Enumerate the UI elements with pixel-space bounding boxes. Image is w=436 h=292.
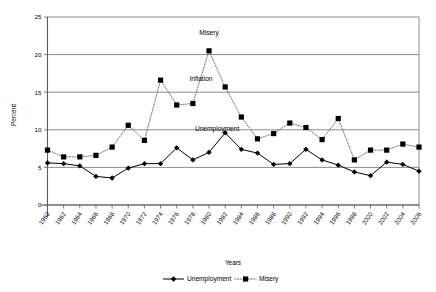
data-point-misery-1966 (93, 153, 98, 158)
y-tick-label: 15 (35, 89, 42, 96)
chart-container: 0510152025 19601962196419661968197019721… (0, 0, 436, 292)
annotation-unemployment: Unemployment (195, 125, 240, 133)
data-point-misery-1994 (319, 137, 324, 142)
data-point-misery-1990 (287, 120, 292, 125)
y-axis-title: Percent (10, 104, 17, 126)
data-point-misery-1986 (255, 136, 260, 141)
chart-annotations: MiseryInflationUnemployment (189, 29, 239, 133)
data-point-misery-1978 (190, 101, 195, 106)
data-point-unemployment-1998 (352, 169, 357, 174)
data-point-misery-2000 (368, 148, 373, 153)
x-tick-label: 2000 (360, 210, 374, 226)
x-tick-label: 1994 (312, 210, 326, 226)
annotation-misery: Misery (199, 29, 219, 37)
series-misery-line (48, 51, 420, 160)
data-point-unemployment-1970 (126, 165, 131, 170)
data-point-misery-1976 (174, 102, 179, 107)
data-point-unemployment-1960 (45, 160, 50, 165)
x-tick-label: 1988 (263, 210, 277, 226)
series-misery-group (45, 48, 422, 162)
x-tick-label: 2004 (393, 210, 407, 226)
data-point-misery-2006 (416, 144, 421, 149)
legend-item-unemployment: Unemployment (163, 275, 232, 283)
legend-label-unemployment: Unemployment (187, 275, 232, 283)
y-tick-label: 20 (35, 51, 42, 58)
data-point-misery-1984 (239, 114, 244, 119)
data-point-misery-1988 (271, 131, 276, 136)
y-axis: 0510152025 (35, 13, 48, 217)
x-axis-title: Years (225, 259, 241, 266)
x-tick-label: 1992 (296, 210, 310, 226)
x-tick-label: 1970 (118, 210, 132, 226)
data-point-misery-1974 (158, 78, 163, 83)
x-tick-label: 1984 (231, 210, 245, 226)
x-tick-label: 1962 (53, 210, 67, 226)
series-unemployment-markers (45, 130, 422, 181)
data-point-misery-1980 (206, 48, 211, 53)
chart-legend: Unemployment Misery (163, 275, 279, 283)
x-tick-label: 1976 (166, 210, 180, 226)
misery-unemployment-line-chart: 0510152025 19601962196419661968197019721… (0, 0, 436, 292)
plot-gridlines (48, 55, 420, 168)
x-tick-label: 1996 (328, 210, 342, 226)
x-tick-label: 1990 (279, 210, 293, 226)
y-tick-label: 5 (38, 164, 42, 171)
x-tick-label: 1986 (247, 210, 261, 226)
x-tick-label: 1960 (37, 210, 51, 226)
x-tick-label: 1964 (69, 210, 83, 226)
x-tick-label: 2006 (409, 210, 423, 226)
y-tick-label: 10 (35, 126, 42, 133)
x-tick-label: 1966 (86, 210, 100, 226)
x-tick-label: 1978 (183, 210, 197, 226)
x-axis: 1960196219641966196819701972197419761978… (37, 205, 422, 226)
data-point-unemployment-1966 (93, 174, 98, 179)
data-point-unemployment-1994 (319, 157, 324, 162)
data-point-unemployment-1968 (109, 175, 114, 180)
x-tick-label: 1982 (215, 210, 229, 226)
data-point-misery-1960 (45, 148, 50, 153)
data-point-misery-1970 (126, 123, 131, 128)
data-point-misery-1996 (336, 116, 341, 121)
y-tick-label: 25 (35, 13, 42, 20)
data-point-misery-2004 (400, 141, 405, 146)
data-point-unemployment-1972 (142, 161, 147, 166)
data-point-misery-2002 (384, 148, 389, 153)
x-tick-label: 1980 (199, 210, 213, 226)
data-point-misery-1992 (303, 125, 308, 130)
annotation-inflation: Inflation (189, 75, 212, 82)
data-point-misery-1982 (223, 84, 228, 89)
x-tick-label: 1968 (102, 210, 116, 226)
x-tick-label: 1998 (344, 210, 358, 226)
x-tick-label: 2002 (376, 210, 390, 226)
data-point-misery-1962 (61, 154, 66, 159)
legend-item-misery: Misery (235, 275, 279, 283)
data-point-misery-1964 (77, 154, 82, 159)
x-tick-label: 1974 (150, 210, 164, 226)
series-unemployment-group (45, 130, 422, 181)
data-point-unemployment-1962 (61, 161, 66, 166)
series-unemployment-line (48, 133, 420, 178)
data-point-misery-1968 (110, 144, 115, 149)
legend-label-misery: Misery (259, 275, 279, 283)
x-tick-label: 1972 (134, 210, 148, 226)
data-point-unemployment-2006 (416, 168, 421, 173)
series-misery-markers (45, 48, 422, 162)
data-point-misery-1972 (142, 138, 147, 143)
data-point-unemployment-2004 (400, 162, 405, 167)
data-point-misery-1998 (352, 157, 357, 162)
